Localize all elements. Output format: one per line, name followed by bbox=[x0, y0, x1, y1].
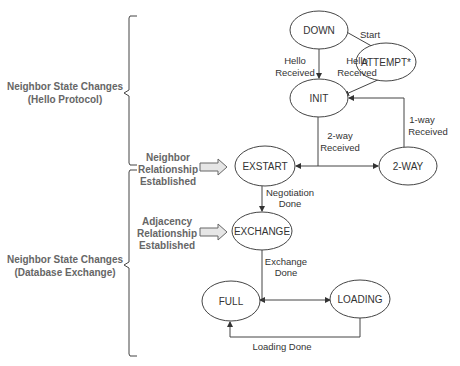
edge-label-down-hello-2: Received bbox=[275, 67, 315, 78]
state-init: INIT bbox=[290, 79, 348, 117]
milestone-neighbor-line3: Established bbox=[140, 176, 196, 187]
edge-label-oneway-2: Received bbox=[408, 126, 448, 137]
milestone-adjacency-line1: Adjacency bbox=[142, 216, 192, 227]
state-down: DOWN bbox=[290, 11, 348, 49]
group-label-hello-line2: (Hello Protocol) bbox=[28, 94, 102, 105]
state-full-label: FULL bbox=[219, 296, 244, 307]
state-loading-label: LOADING bbox=[337, 294, 382, 305]
group-label-dbex-line1: Neighbor State Changes bbox=[7, 254, 124, 265]
edge-label-down-hello-1: Hello bbox=[284, 55, 306, 66]
edge-attempt-init bbox=[344, 79, 380, 95]
edge-label-twoway-1: 2-way bbox=[327, 130, 353, 141]
edge-label-negotiation-1: Negotiation bbox=[266, 187, 314, 198]
bracket-database-exchange bbox=[124, 170, 137, 356]
ospf-state-diagram: Neighbor State Changes (Hello Protocol) … bbox=[0, 0, 460, 366]
edge-label-attempt-hello-1: Hello bbox=[346, 55, 368, 66]
edge-loading-full bbox=[230, 318, 360, 337]
bracket-hello-protocol bbox=[124, 16, 137, 165]
edge-label-exchange-done-1: Exchange bbox=[265, 256, 307, 267]
edge-label-start: Start bbox=[360, 29, 380, 40]
state-attempt-label: ATTEMPT* bbox=[361, 57, 411, 68]
state-exstart: EXSTART bbox=[235, 146, 295, 186]
group-label-dbex-line2: (Database Exchange) bbox=[14, 267, 115, 278]
state-exstart-label: EXSTART bbox=[242, 161, 287, 172]
state-exchange-label: EXCHANGE bbox=[234, 226, 290, 237]
state-twoway-label: 2-WAY bbox=[393, 161, 424, 172]
state-exchange: EXCHANGE bbox=[232, 212, 292, 250]
edge-label-loading-done: Loading Done bbox=[252, 341, 311, 352]
edge-twoway-init bbox=[349, 98, 404, 147]
state-twoway: 2-WAY bbox=[379, 147, 437, 185]
edge-label-negotiation-2: Done bbox=[279, 198, 302, 209]
edge-label-attempt-hello-2: Received bbox=[337, 67, 377, 78]
state-loading: LOADING bbox=[330, 280, 390, 318]
edge-label-oneway-1: 1-way bbox=[409, 114, 435, 125]
edge-label-twoway-2: Received bbox=[320, 142, 360, 153]
milestone-neighbor-line1: Neighbor bbox=[146, 152, 190, 163]
block-arrow-neighbor-icon bbox=[200, 159, 227, 175]
state-down-label: DOWN bbox=[303, 25, 335, 36]
group-label-hello-line1: Neighbor State Changes bbox=[7, 81, 124, 92]
milestone-adjacency-line2: Relationship bbox=[137, 228, 197, 239]
milestone-adjacency-line3: Established bbox=[139, 240, 195, 251]
state-init-label: INIT bbox=[310, 93, 329, 104]
edge-label-exchange-done-2: Done bbox=[275, 267, 298, 278]
milestone-neighbor-line2: Relationship bbox=[138, 164, 198, 175]
state-full: FULL bbox=[202, 281, 260, 321]
block-arrow-adjacency-icon bbox=[200, 224, 227, 240]
